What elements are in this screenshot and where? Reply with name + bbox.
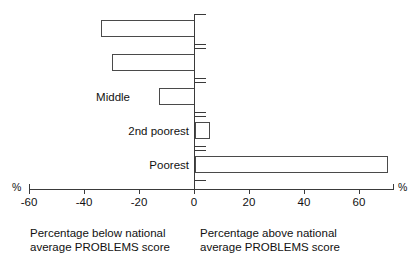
zero-tick-mark [195,48,206,49]
chart-row-richest: Richest [0,14,417,44]
category-label-poorest: Poorest [149,150,189,180]
zero-axis-line [194,14,195,190]
x-axis-tick [29,189,30,194]
zero-tick-mark [195,146,206,147]
x-tick-label: 20 [229,196,269,208]
plot-area: Richest 2nd richest Middle 2nd poorest P… [0,0,417,190]
bar-chart: Richest 2nd richest Middle 2nd poorest P… [0,0,417,263]
zero-tick-mark [195,14,206,15]
caption-below-national-average: Percentage below national average PROBLE… [30,226,170,254]
x-tick-label: -20 [119,196,159,208]
bar-richest [101,20,195,37]
x-tick-label: 40 [284,196,324,208]
chart-row-2nd-richest: 2nd richest [0,48,417,78]
x-axis-tick [249,189,250,194]
x-tick-label: -60 [9,196,49,208]
x-axis-tick [304,189,305,194]
chart-row-2nd-poorest: 2nd poorest [0,116,417,146]
x-axis-tick [139,189,140,194]
x-tick-label: 60 [339,196,379,208]
bar-2nd-richest [112,54,195,71]
zero-tick-mark [195,180,206,181]
zero-tick-mark [195,116,206,117]
chart-row-middle: Middle [0,82,417,112]
zero-tick-mark [195,44,206,45]
chart-row-poorest: Poorest [0,150,417,180]
x-axis-tick [84,189,85,194]
x-axis-tick [359,189,360,194]
x-axis-unit-right: % [398,181,407,193]
category-label-middle: Middle [96,82,130,112]
bar-poorest [195,156,388,173]
x-axis-tick [194,189,195,194]
zero-tick-mark [195,82,206,83]
bar-2nd-poorest [195,122,210,139]
x-axis-right-cap [393,184,394,190]
x-tick-label: 0 [174,196,214,208]
zero-tick-mark [195,78,206,79]
caption-above-national-average: Percentage above national average PROBLE… [200,226,340,254]
bar-middle [159,88,195,105]
x-tick-label: -40 [64,196,104,208]
zero-tick-mark [195,112,206,113]
category-label-2nd-poorest: 2nd poorest [128,116,189,146]
zero-tick-mark [195,150,206,151]
x-axis-unit-left: % [12,181,21,193]
